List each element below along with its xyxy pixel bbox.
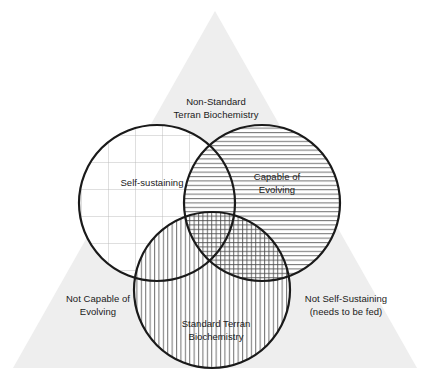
venn-diagram: Non-Standard Terran Biochemistry Self-su… bbox=[0, 0, 429, 388]
venn-diagram-canvas bbox=[0, 0, 429, 388]
